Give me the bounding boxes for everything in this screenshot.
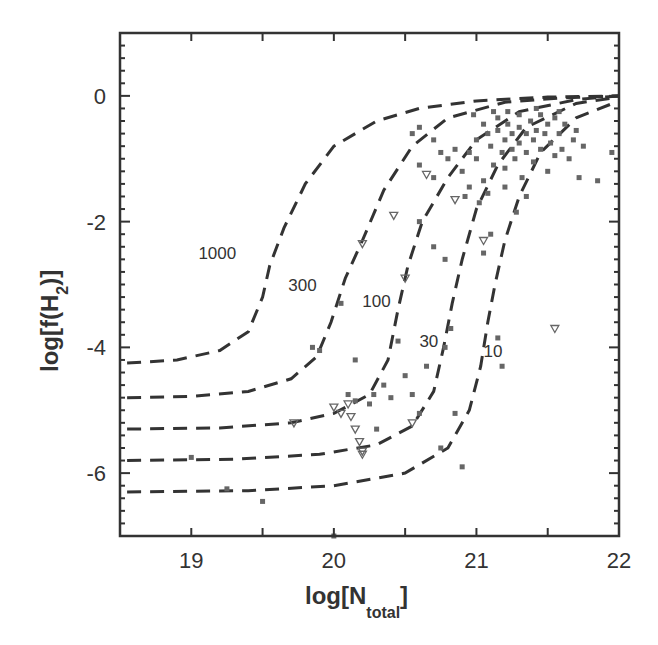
data-point-detection bbox=[528, 119, 533, 124]
data-point-detection bbox=[410, 131, 415, 136]
data-point-detection bbox=[514, 210, 519, 215]
data-point-detection bbox=[431, 244, 436, 249]
data-point-detection bbox=[453, 147, 458, 152]
data-point-detection bbox=[477, 200, 482, 205]
data-point-detection bbox=[431, 175, 436, 180]
data-point-detection bbox=[548, 141, 553, 146]
data-point-detection bbox=[495, 128, 500, 133]
data-point-detection bbox=[338, 301, 343, 306]
curve-label-100: 100 bbox=[362, 292, 390, 311]
data-point-detection bbox=[317, 348, 322, 353]
data-point-detection bbox=[443, 257, 448, 262]
x-tick-label: 22 bbox=[607, 548, 631, 573]
data-point-detection bbox=[417, 411, 422, 416]
data-point-detection bbox=[531, 137, 536, 142]
data-point-detection bbox=[381, 383, 386, 388]
data-point-detection bbox=[538, 112, 543, 117]
data-point-detection bbox=[595, 178, 600, 183]
data-point-detection bbox=[520, 175, 525, 180]
plot-area bbox=[120, 33, 619, 536]
data-point-detection bbox=[542, 131, 547, 136]
data-point-detection bbox=[424, 364, 429, 369]
data-point-detection bbox=[438, 445, 443, 450]
data-point-detection bbox=[431, 137, 436, 142]
data-point-detection bbox=[488, 232, 493, 237]
data-point-detection bbox=[485, 191, 490, 196]
data-point-detection bbox=[552, 153, 557, 158]
data-point-detection bbox=[396, 339, 401, 344]
data-point-detection bbox=[481, 251, 486, 256]
data-point-detection bbox=[524, 131, 529, 136]
data-point-detection bbox=[388, 395, 393, 400]
x-axis-title: log[Ntotal] bbox=[305, 582, 408, 621]
data-point-detection bbox=[491, 109, 496, 114]
y-tick-label: 0 bbox=[94, 84, 106, 109]
x-tick-label: 21 bbox=[464, 548, 488, 573]
data-point-detection bbox=[552, 115, 557, 120]
x-tick-label: 20 bbox=[322, 548, 346, 573]
data-point-detection bbox=[485, 131, 490, 136]
data-point-detection bbox=[460, 464, 465, 469]
data-point-detection bbox=[488, 144, 493, 149]
data-point-detection bbox=[512, 156, 517, 161]
y-axis-title: log[f(H2)] bbox=[36, 270, 71, 372]
data-point-detection bbox=[500, 150, 505, 155]
data-point-detection bbox=[502, 137, 507, 142]
data-point-detection bbox=[517, 141, 522, 146]
data-point-detection bbox=[481, 178, 486, 183]
data-point-detection bbox=[505, 122, 510, 127]
data-point-detection bbox=[502, 185, 507, 190]
curve-label-300: 300 bbox=[288, 276, 316, 295]
data-point-detection bbox=[438, 150, 443, 155]
data-point-detection bbox=[367, 401, 372, 406]
data-point-detection bbox=[571, 137, 576, 142]
data-point-detection bbox=[481, 122, 486, 127]
data-point-detection bbox=[471, 112, 476, 117]
y-tick-label: -4 bbox=[86, 335, 106, 360]
data-point-detection bbox=[557, 109, 562, 114]
data-point-detection bbox=[502, 166, 507, 171]
data-point-detection bbox=[545, 169, 550, 174]
y-tick-label: -6 bbox=[86, 461, 106, 486]
curve-label-1000: 1000 bbox=[198, 244, 236, 263]
data-point-detection bbox=[495, 335, 500, 340]
data-point-detection bbox=[417, 125, 422, 130]
data-point-detection bbox=[410, 392, 415, 397]
data-point-detection bbox=[567, 156, 572, 161]
data-point-detection bbox=[534, 106, 539, 111]
data-point-detection bbox=[371, 392, 376, 397]
data-point-detection bbox=[538, 147, 543, 152]
data-point-detection bbox=[453, 411, 458, 416]
data-point-detection bbox=[581, 144, 586, 149]
data-point-detection bbox=[531, 159, 536, 164]
data-point-detection bbox=[574, 128, 579, 133]
data-point-detection bbox=[524, 150, 529, 155]
data-point-detection bbox=[495, 115, 500, 120]
data-point-detection bbox=[510, 131, 515, 136]
data-point-detection bbox=[545, 122, 550, 127]
data-point-detection bbox=[577, 175, 582, 180]
data-point-detection bbox=[557, 131, 562, 136]
data-point-detection bbox=[448, 326, 453, 331]
data-point-detection bbox=[559, 147, 564, 152]
data-point-detection bbox=[374, 427, 379, 432]
data-point-detection bbox=[517, 125, 522, 130]
data-point-detection bbox=[463, 194, 468, 199]
data-point-detection bbox=[491, 163, 496, 168]
x-tick-label: 19 bbox=[179, 548, 203, 573]
data-point-detection bbox=[353, 398, 358, 403]
data-point-detection bbox=[260, 499, 265, 504]
data-point-detection bbox=[353, 357, 358, 362]
data-point-detection bbox=[443, 345, 448, 350]
data-point-detection bbox=[310, 345, 315, 350]
data-point-detection bbox=[346, 392, 351, 397]
data-point-detection bbox=[500, 364, 505, 369]
data-point-detection bbox=[467, 150, 472, 155]
data-point-detection bbox=[534, 128, 539, 133]
data-point-detection bbox=[417, 219, 422, 224]
data-point-detection bbox=[445, 156, 450, 161]
data-point-detection bbox=[524, 194, 529, 199]
y-tick-label: -2 bbox=[86, 210, 106, 235]
data-point-detection bbox=[474, 156, 479, 161]
curve-label-30: 30 bbox=[419, 332, 438, 351]
